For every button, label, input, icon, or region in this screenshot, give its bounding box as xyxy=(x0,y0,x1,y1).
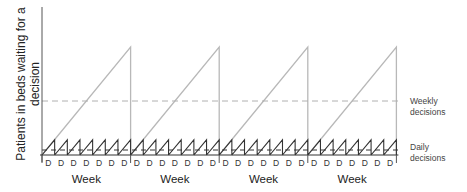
weekly-decisions-label: Weekly decisions xyxy=(410,96,445,118)
day-label: D xyxy=(96,158,102,168)
daily-label-line2: decisions xyxy=(410,153,445,164)
daily-decisions-label: Daily decisions xyxy=(410,142,445,164)
day-label: D xyxy=(109,158,115,168)
day-label: D xyxy=(210,158,216,168)
day-label: D xyxy=(159,158,165,168)
daily-sawtooth-line xyxy=(42,140,396,155)
day-label: D xyxy=(260,158,266,168)
week-label: Week xyxy=(337,173,366,185)
day-label: D xyxy=(134,158,140,168)
day-label: D xyxy=(83,158,89,168)
sawtooth-plot: DDDDDDDWeekDDDDDDDWeekDDDDDDDWeekDDDDDDD… xyxy=(0,0,467,192)
week-label: Week xyxy=(72,173,101,185)
day-label: D xyxy=(374,158,380,168)
day-label: D xyxy=(45,158,51,168)
day-label: D xyxy=(362,158,368,168)
day-label: D xyxy=(121,158,127,168)
day-label: D xyxy=(349,158,355,168)
day-label: D xyxy=(324,158,330,168)
weekly-label-line2: decisions xyxy=(410,107,445,118)
day-label: D xyxy=(71,158,77,168)
day-label: D xyxy=(286,158,292,168)
day-label: D xyxy=(147,158,153,168)
day-label: D xyxy=(248,158,254,168)
weekly-label-line1: Weekly xyxy=(410,96,445,107)
day-label: D xyxy=(58,158,64,168)
day-label: D xyxy=(184,158,190,168)
day-label: D xyxy=(387,158,393,168)
daily-label-line1: Daily xyxy=(410,142,445,153)
y-axis-label: Patients in beds waiting for a decision xyxy=(14,0,42,174)
day-label: D xyxy=(172,158,178,168)
week-label: Week xyxy=(249,173,278,185)
day-label: D xyxy=(336,158,342,168)
day-label: D xyxy=(298,158,304,168)
day-label: D xyxy=(235,158,241,168)
day-label: D xyxy=(197,158,203,168)
week-label: Week xyxy=(160,173,189,185)
day-label: D xyxy=(222,158,228,168)
day-label: D xyxy=(273,158,279,168)
diagram: DDDDDDDWeekDDDDDDDWeekDDDDDDDWeekDDDDDDD… xyxy=(0,0,467,192)
day-label: D xyxy=(311,158,317,168)
